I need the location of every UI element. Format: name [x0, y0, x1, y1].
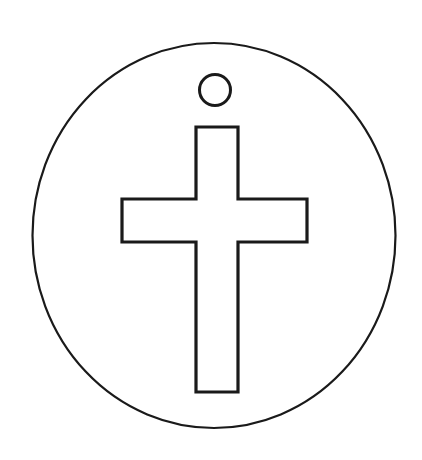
- cross-medallion-drawing: [0, 0, 422, 460]
- illustration-canvas: [0, 0, 422, 460]
